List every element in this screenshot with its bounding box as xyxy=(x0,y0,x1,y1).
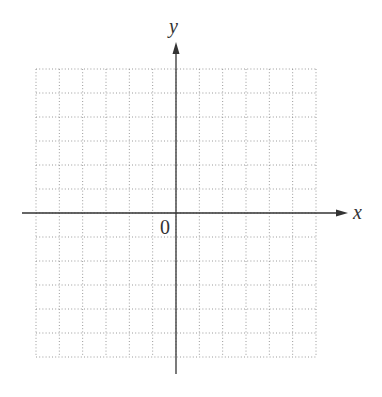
origin-label: 0 xyxy=(160,216,170,238)
coordinate-plane: x y 0 xyxy=(0,0,382,397)
x-axis-label: x xyxy=(352,201,362,223)
x-axis-arrow-icon xyxy=(336,210,348,217)
y-axis-arrow-icon xyxy=(173,42,180,54)
y-axis-label: y xyxy=(167,15,178,38)
